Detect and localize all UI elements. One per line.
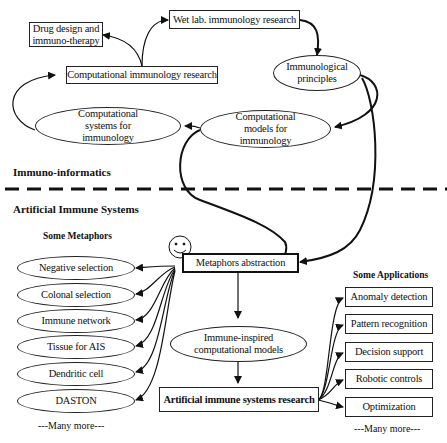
- comp-immunology-research-box: Computational immunology research: [66, 66, 218, 84]
- comp-systems-ellipse: Computational systems for immunology: [35, 107, 181, 145]
- applications-more-note: ---Many more---: [354, 423, 420, 434]
- ais-section-label: Artificial Immune Systems: [13, 203, 139, 215]
- immuno-informatics-label: Immuno-informatics: [13, 166, 111, 178]
- metaphor-dendritic-cell: Dendritic cell: [17, 362, 135, 386]
- app-robotic-controls: Robotic controls: [345, 369, 433, 389]
- applications-heading: Some Applications: [353, 270, 428, 280]
- diagram-root: Wet lab. immunology research Drug design…: [0, 0, 447, 443]
- comp-models-ellipse: Computational models for immunology: [200, 110, 331, 148]
- metaphors-more-note: ---Many more---: [38, 420, 104, 431]
- immunological-principles-ellipse: Immunological principles: [273, 55, 361, 91]
- metaphor-negative-selection: Negative selection: [17, 256, 135, 280]
- wet-lab-box: Wet lab. immunology research: [169, 10, 300, 29]
- app-pattern-recognition: Pattern recognition: [345, 314, 433, 334]
- metaphor-immune-network: Immune network: [17, 309, 135, 333]
- app-decision-support: Decision support: [345, 342, 433, 362]
- metaphor-tissue-for-ais: Tissue for AIS: [17, 335, 135, 359]
- metaphors-abstraction-box: Metaphors abstraction: [182, 253, 299, 273]
- metaphors-heading: Some Metaphors: [43, 231, 112, 241]
- drug-design-box: Drug design and immuno-therapy: [29, 22, 103, 47]
- app-anomaly-detection: Anomaly detection: [345, 287, 433, 307]
- metaphor-daston: DASTON: [17, 389, 135, 413]
- app-optimization: Optimization: [345, 397, 433, 417]
- metaphor-colonal-selection: Colonal selection: [17, 283, 135, 307]
- ais-research-box: Artificial immune systems research: [159, 387, 319, 412]
- immune-inspired-models-ellipse: Immune-inspired computational models: [170, 326, 307, 362]
